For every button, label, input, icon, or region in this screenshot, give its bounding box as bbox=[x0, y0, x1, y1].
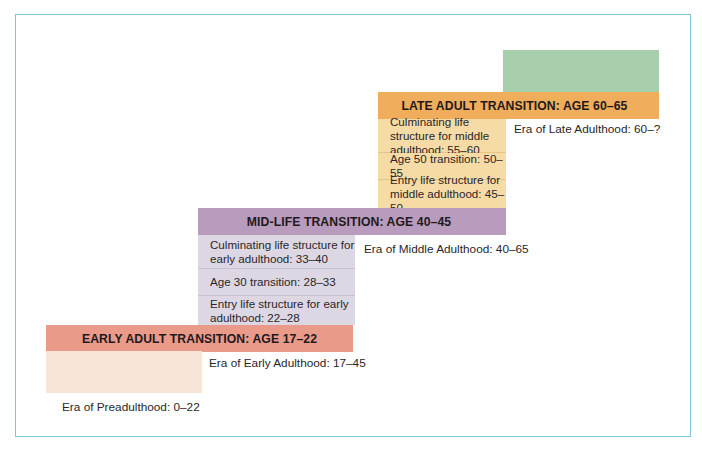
early-adult-transition-label: EARLY ADULT TRANSITION: AGE 17–22 bbox=[82, 332, 317, 346]
late-adulthood-era-block bbox=[503, 50, 659, 93]
early-culminating-stage: Culminating life structure for early adu… bbox=[198, 235, 355, 269]
era-preadulthood-label: Era of Preadulthood: 0–22 bbox=[62, 400, 200, 414]
early-entry-stage: Entry life structure for early adulthood… bbox=[198, 296, 355, 325]
preadulthood-era-block bbox=[46, 351, 202, 393]
stage-label: Culminating life structure for early adu… bbox=[210, 238, 355, 266]
stage-label: Entry life structure for early adulthood… bbox=[210, 297, 355, 325]
era-middle-adulthood-label: Era of Middle Adulthood: 40–65 bbox=[364, 242, 529, 256]
era-early-adulthood-label: Era of Early Adulthood: 17–45 bbox=[209, 356, 366, 370]
stage-label: Culminating life structure for middle ad… bbox=[390, 115, 506, 157]
age-30-transition-stage: Age 30 transition: 28–33 bbox=[198, 269, 355, 296]
middle-entry-stage: Entry life structure for middle adulthoo… bbox=[378, 180, 506, 208]
stage-label: Age 30 transition: 28–33 bbox=[210, 275, 336, 289]
mid-life-transition-label: MID-LIFE TRANSITION: AGE 40–45 bbox=[247, 215, 451, 229]
late-adult-transition-label: LATE ADULT TRANSITION: AGE 60–65 bbox=[402, 99, 628, 113]
middle-culminating-stage: Culminating life structure for middle ad… bbox=[378, 119, 506, 153]
early-adult-transition-band: EARLY ADULT TRANSITION: AGE 17–22 bbox=[46, 325, 353, 352]
era-late-adulthood-label: Era of Late Adulthood: 60–? bbox=[514, 122, 660, 136]
mid-life-transition-band: MID-LIFE TRANSITION: AGE 40–45 bbox=[198, 208, 506, 235]
